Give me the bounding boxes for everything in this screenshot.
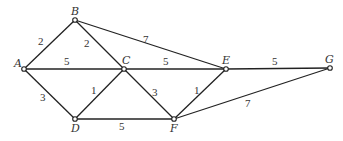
node-label-g: G [325,53,334,66]
edge-weight-f-g: 7 [245,97,251,109]
edge-weight-b-c: 2 [84,37,90,49]
node-d-icon [73,117,78,122]
node-g-icon [328,66,333,71]
node-label-f: F [169,122,178,135]
node-labels-layer: ABCDEFG [13,5,334,135]
edge-c-f [124,69,174,119]
edge-c-d [75,69,124,119]
edge-weight-a-b: 2 [38,35,44,47]
node-e-icon [224,67,229,72]
edge-e-g [226,68,330,69]
node-label-d: D [70,122,80,135]
edge-weight-c-d: 1 [91,84,97,96]
weighted-graph-diagram: 253271535157 ABCDEFG [0,0,343,141]
edge-weight-c-e: 5 [163,55,169,67]
edges-layer [24,20,330,119]
node-label-b: B [70,5,79,18]
edge-b-e [75,20,226,69]
edge-a-d [24,69,75,119]
edge-weight-e-f: 1 [194,84,200,96]
edge-weight-c-f: 3 [152,86,158,98]
node-f-icon [172,117,177,122]
node-label-a: A [13,57,22,70]
node-label-e: E [221,54,230,67]
edge-e-f [174,69,226,119]
node-label-c: C [122,54,131,67]
edge-weight-d-f: 5 [119,120,125,132]
node-b-icon [73,18,78,23]
edge-weight-a-c: 5 [64,55,70,67]
node-a-icon [22,67,27,72]
edge-weight-e-g: 5 [272,55,278,67]
node-c-icon [122,67,127,72]
edge-weight-a-d: 3 [40,91,46,103]
edge-weight-b-e: 7 [143,33,149,45]
